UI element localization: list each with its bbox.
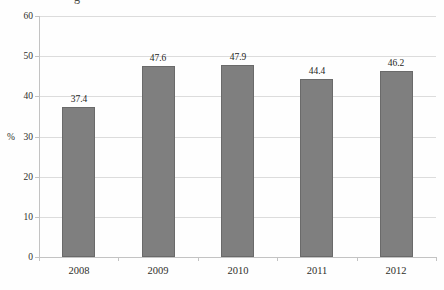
x-axis-line [39, 257, 437, 258]
y-axis-tick-label: 60 [7, 10, 33, 22]
x-axis-tick-label: 2010 [203, 264, 273, 277]
bar-value-label: 44.4 [287, 65, 347, 77]
bar-value-label: 46.2 [366, 57, 426, 69]
bar-value-label: 47.9 [208, 51, 268, 63]
x-axis-tick-label: 2012 [361, 264, 431, 277]
y-axis-tick-label: 40 [7, 90, 33, 102]
y-axis-line [39, 16, 40, 257]
x-axis-tick-label: 2011 [282, 264, 352, 277]
x-axis-tick [39, 258, 40, 261]
bar [221, 65, 254, 257]
bar-chart: g 010203040506037.4200847.6200947.920104… [0, 0, 444, 290]
x-axis-tick [436, 258, 437, 261]
x-axis-tick [357, 258, 358, 261]
y-axis-tick-label: 0 [7, 251, 33, 263]
y-axis-tick-label: 20 [7, 171, 33, 183]
bar [62, 107, 95, 257]
bar [142, 66, 175, 257]
x-axis-tick [118, 258, 119, 261]
bar-value-label: 37.4 [49, 93, 109, 105]
y-axis-tick-label: 10 [7, 211, 33, 223]
clipped-title-fragment: g [74, 0, 81, 5]
bar [380, 71, 413, 257]
y-axis-tick-label: 50 [7, 50, 33, 62]
x-axis-tick-label: 2008 [44, 264, 114, 277]
x-axis-tick [198, 258, 199, 261]
bar [300, 79, 333, 257]
x-axis-tick-label: 2009 [123, 264, 193, 277]
x-axis-tick [277, 258, 278, 261]
y-axis-title: % [7, 131, 15, 143]
gridline [39, 16, 436, 17]
bar-value-label: 47.6 [128, 52, 188, 64]
